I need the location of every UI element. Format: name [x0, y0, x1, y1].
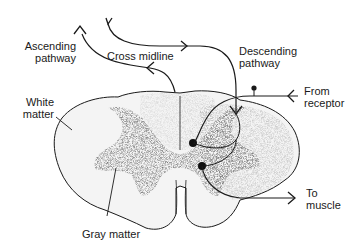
ascending-label-line1: Ascending	[2, 40, 76, 52]
from-label-line1: From	[304, 85, 344, 97]
gray-matter-label: Gray matter	[82, 228, 140, 240]
diagram-artwork	[0, 0, 360, 249]
to-label-line2: muscle	[306, 199, 341, 211]
from-receptor-label: From receptor	[304, 85, 344, 109]
to-label-line1: To	[306, 187, 341, 199]
white-label-line2: matter	[6, 108, 54, 120]
descending-pathway-label: Descending pathway	[239, 45, 297, 69]
to-muscle-label: To muscle	[306, 187, 341, 211]
cross-midline-label: Cross midline	[107, 50, 174, 62]
spinal-cord-diagram: Ascending pathway Cross midline Descendi…	[0, 0, 360, 249]
descending-label-line2: pathway	[239, 57, 297, 69]
white-matter-label: White matter	[6, 96, 54, 120]
descending-label-line1: Descending	[239, 45, 297, 57]
ascending-pathway-label: Ascending pathway	[2, 40, 76, 64]
white-label-line1: White	[6, 96, 54, 108]
ascending-label-line2: pathway	[2, 52, 76, 64]
from-label-line2: receptor	[304, 97, 344, 109]
